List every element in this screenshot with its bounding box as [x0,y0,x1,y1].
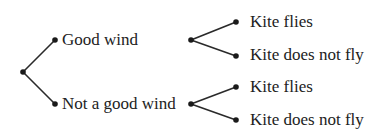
label-good-wind-kite-not-fly: Kite does not fly [250,46,364,63]
branch-root-good-wind [23,40,55,72]
root-node [20,69,26,75]
branch-root-not-good-wind [23,72,55,104]
label-not-good-wind: Not a good wind [62,95,176,112]
node-good-wind-not-fly [233,53,239,59]
node-good-wind [52,37,58,43]
node-good-wind-split [188,37,194,43]
node-not-good-wind-flies [233,84,239,90]
branch-good-wind-not-fly [191,40,236,56]
branch-good-wind-flies [191,22,236,40]
node-good-wind-flies [233,19,239,25]
branch-not-good-wind-flies [191,87,236,104]
label-not-good-wind-kite-flies: Kite flies [250,78,313,95]
node-not-good-wind-not-fly [233,117,239,123]
node-not-good-wind-split [188,101,194,107]
label-good-wind: Good wind [62,31,138,48]
label-not-good-wind-kite-not-fly: Kite does not fly [250,111,364,128]
branch-not-good-wind-not-fly [191,104,236,120]
node-not-good-wind [52,101,58,107]
label-good-wind-kite-flies: Kite flies [250,13,313,30]
